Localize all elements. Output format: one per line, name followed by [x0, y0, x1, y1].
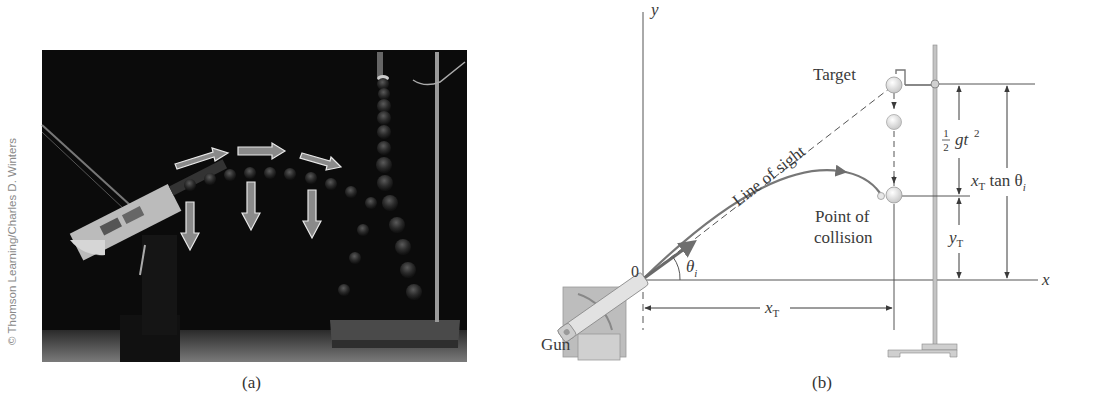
svg-text:2: 2 — [943, 141, 949, 153]
fall-distance-label: 1 2 gt 2 — [942, 127, 980, 153]
gun-label: Gun — [541, 335, 571, 354]
projectile-ball — [878, 193, 885, 200]
origin-label: 0 — [631, 263, 639, 280]
yt-label: yT — [947, 228, 964, 249]
x-axis-label: x — [1041, 270, 1050, 289]
falling-ball — [887, 115, 902, 130]
xt-label: xT — [764, 298, 780, 319]
line-of-sight-label: Line of sight — [729, 142, 809, 211]
svg-text:2: 2 — [974, 127, 980, 139]
xt-tan-theta-label: xT tan θi — [970, 171, 1026, 193]
target-ball — [886, 77, 902, 93]
caption-b: (b) — [812, 373, 832, 393]
angle-label: θi — [686, 257, 697, 279]
svg-text:1: 1 — [943, 127, 949, 139]
angle-arc — [673, 257, 680, 280]
svg-text:gt: gt — [955, 130, 970, 149]
collision-label-2: collision — [814, 228, 873, 247]
target-label: Target — [813, 65, 856, 84]
collision-label-1: Point of — [815, 207, 870, 226]
gun-icon — [557, 272, 649, 360]
figure: © Thomson Learning/Charles D. Winters (a… — [0, 0, 1110, 411]
y-axis-label: y — [649, 0, 659, 19]
diagram-panel-b: y x 0 θi Gun Target Line of sight Point … — [0, 0, 1110, 411]
collision-ball — [886, 187, 902, 203]
